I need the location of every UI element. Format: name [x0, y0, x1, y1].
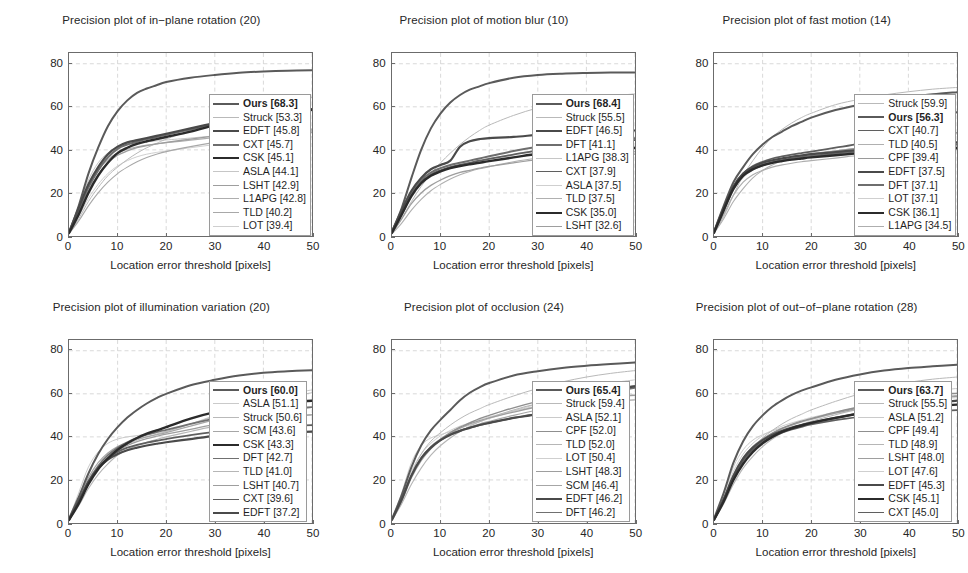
legend-item: EDFT [37.5]	[858, 165, 951, 179]
legend-line-icon	[213, 471, 239, 472]
precision-plots-figure: Precision plot of in−plane rotation (20)…	[0, 0, 968, 573]
legend-label: L1APG [38.3]	[566, 151, 629, 165]
legend-line-icon	[213, 417, 239, 418]
x-tick-label: 20	[160, 240, 173, 252]
x-tick-label: 20	[805, 240, 818, 252]
x-tick-label: 40	[258, 527, 271, 539]
legend-item: L1APG [38.3]	[536, 151, 629, 165]
x-tick-label: 0	[387, 240, 393, 252]
legend-item: TLD [48.9]	[858, 438, 947, 452]
legend-line-icon	[536, 212, 562, 214]
panel-4: Precision plot of occlusion (24) Distanc…	[323, 287, 646, 573]
x-tick-label: 0	[710, 527, 716, 539]
legend-label: CXT [40.7]	[888, 124, 938, 138]
legend-line-icon	[858, 226, 884, 227]
legend-line-icon	[536, 512, 562, 513]
legend-line-icon	[536, 471, 562, 472]
legend-label: EDFT [45.8]	[243, 124, 299, 138]
legend-label: EDFT [37.2]	[243, 506, 299, 520]
legend-item: DFT [46.2]	[536, 506, 625, 520]
x-axis-label: Location error threshold [pixels]	[110, 546, 270, 558]
legend-item: EDFT [37.2]	[213, 506, 302, 520]
y-tick-label: 80	[696, 57, 709, 69]
legend-line-icon	[858, 498, 884, 500]
legend-label: Ours [60.0]	[243, 384, 298, 398]
legend-item: Struck [59.4]	[536, 397, 625, 411]
plot-wrap-4: Distance Precision [%] Location error th…	[391, 339, 636, 524]
x-tick-label: 30	[854, 527, 867, 539]
legend-line-icon	[536, 158, 562, 159]
panel-title: Precision plot of in−plane rotation (20)	[0, 14, 323, 26]
plot-wrap-0: Distance Precision [%] Location error th…	[68, 52, 313, 237]
legend-item: CSK [36.1]	[858, 206, 951, 220]
legend-line-icon	[536, 417, 562, 418]
legend-label: EDFT [37.5]	[888, 165, 944, 179]
y-tick-mark	[713, 524, 717, 525]
x-tick-label: 10	[111, 527, 124, 539]
legend-item: EDFT [46.5]	[536, 124, 629, 138]
legend-label: CPF [52.0]	[566, 424, 616, 438]
x-tick-mark	[713, 520, 714, 524]
y-tick-label: 0	[702, 518, 708, 530]
y-tick-label: 40	[696, 144, 709, 156]
legend-label: TLD [48.9]	[888, 438, 937, 452]
legend-item: CSK [45.1]	[213, 151, 306, 165]
x-tick-label: 50	[629, 527, 642, 539]
legend-line-icon	[858, 389, 884, 391]
x-tick-label: 30	[854, 240, 867, 252]
legend-line-icon	[213, 444, 239, 446]
legend-label: LOT [50.4]	[566, 451, 615, 465]
y-tick-mark	[391, 237, 395, 238]
x-tick-mark	[117, 520, 118, 524]
y-tick-label: 40	[696, 430, 709, 442]
legend-label: Ours [63.7]	[888, 384, 943, 398]
legend-item: L1APG [42.8]	[213, 192, 306, 206]
legend-label: ASLA [44.1]	[243, 165, 298, 179]
x-axis-label: Location error threshold [pixels]	[433, 259, 593, 271]
legend-item: SCM [43.6]	[213, 424, 302, 438]
legend-line-icon	[858, 458, 884, 459]
chart-legend: Ours [60.0]ASLA [51.1]Struck [50.6]SCM […	[209, 381, 307, 523]
legend-label: EDFT [46.2]	[566, 492, 622, 506]
legend-line-icon	[213, 389, 239, 391]
legend-label: Struck [59.9]	[888, 97, 947, 111]
x-tick-mark	[440, 233, 441, 237]
x-tick-label: 50	[952, 240, 965, 252]
y-tick-mark	[391, 393, 395, 394]
legend-label: LSHT [32.6]	[566, 219, 622, 233]
x-tick-label: 0	[65, 240, 71, 252]
legend-item: CPF [49.4]	[858, 424, 947, 438]
legend-label: DFT [46.2]	[566, 506, 615, 520]
legend-item: Ours [60.0]	[213, 384, 302, 398]
legend-item: LOT [37.1]	[858, 192, 951, 206]
y-tick-label: 0	[379, 518, 385, 530]
y-tick-label: 60	[50, 387, 63, 399]
y-tick-label: 60	[373, 387, 386, 399]
legend-item: LOT [39.4]	[213, 219, 306, 233]
x-tick-label: 20	[160, 527, 173, 539]
x-tick-label: 40	[903, 527, 916, 539]
legend-label: LOT [37.1]	[888, 192, 937, 206]
x-tick-label: 20	[482, 527, 495, 539]
legend-label: CSK [35.0]	[566, 206, 617, 220]
x-tick-label: 30	[209, 240, 222, 252]
legend-line-icon	[213, 171, 239, 172]
x-tick-mark	[166, 233, 167, 237]
x-tick-mark	[166, 520, 167, 524]
y-tick-label: 20	[50, 474, 63, 486]
y-tick-mark	[68, 63, 72, 64]
legend-line-icon	[536, 485, 562, 486]
legend-item: LOT [47.6]	[858, 465, 947, 479]
legend-label: Struck [55.5]	[888, 397, 947, 411]
legend-line-icon	[858, 158, 884, 159]
x-tick-label: 50	[307, 527, 320, 539]
y-tick-mark	[391, 480, 395, 481]
x-tick-label: 0	[710, 240, 716, 252]
legend-line-icon	[858, 512, 884, 513]
x-tick-label: 10	[111, 240, 124, 252]
legend-label: CXT [37.9]	[566, 165, 616, 179]
legend-item: LSHT [32.6]	[536, 219, 629, 233]
legend-label: LSHT [40.7]	[243, 479, 299, 493]
y-tick-mark	[713, 237, 717, 238]
y-tick-label: 0	[57, 231, 63, 243]
